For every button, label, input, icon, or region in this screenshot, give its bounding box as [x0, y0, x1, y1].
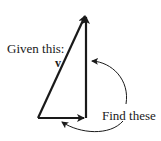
find-label: Find these [102, 108, 156, 124]
pointer-curve-to-vertical [92, 61, 127, 104]
given-label: Given this: [7, 41, 64, 57]
vector-v-label: v [55, 56, 61, 71]
hypotenuse-vector-v [38, 16, 85, 118]
